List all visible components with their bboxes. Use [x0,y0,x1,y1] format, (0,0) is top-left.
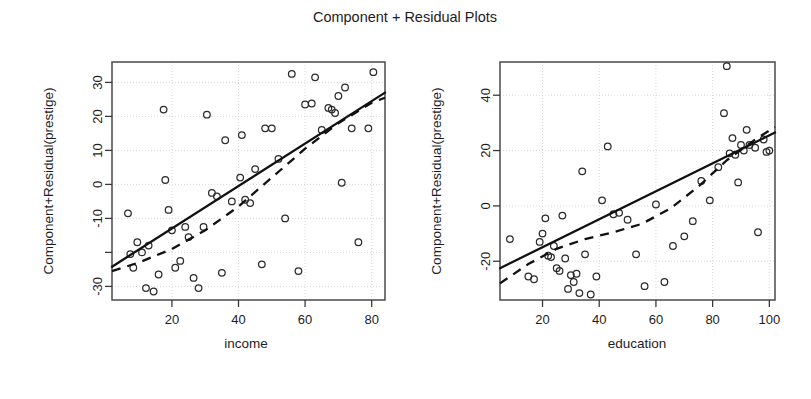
y-tick-label: 0 [91,181,106,188]
x-tick-label: 40 [592,312,606,327]
x-tick-label: 20 [165,312,179,327]
x-axis-label: income [224,336,268,351]
x-tick-label: 20 [535,312,549,327]
x-tick-label: 100 [758,312,780,327]
y-axis-label: Component+Residual(prestige) [429,87,444,274]
y-tick-label: 10 [91,143,106,157]
y-tick-label: -30 [91,277,106,296]
y-tick-label: 40 [479,88,494,102]
component-residual-plots-figure: Component + Residual Plots 20406080-30-1… [0,0,811,399]
x-tick-label: 40 [231,312,245,327]
x-axis-label: education [608,336,667,351]
figure-background [0,0,811,399]
x-tick-label: 80 [705,312,719,327]
x-tick-label: 60 [298,312,312,327]
x-tick-label: 60 [649,312,663,327]
y-tick-label: 30 [91,75,106,89]
y-tick-label: 20 [91,109,106,123]
x-tick-label: 80 [364,312,378,327]
y-tick-label: -10 [91,209,106,228]
y-tick-label: 0 [479,202,494,209]
page-title: Component + Residual Plots [313,9,497,25]
y-tick-label: 20 [479,143,494,157]
y-tick-label: -20 [479,252,494,271]
y-axis-label: Component+Residual(prestige) [41,87,56,274]
